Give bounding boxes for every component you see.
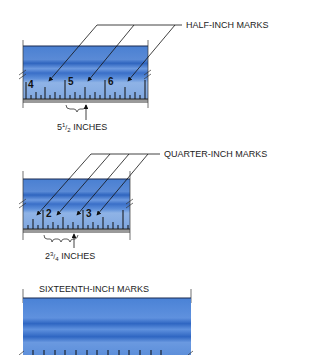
half-inch-panel: 4 5 6 HALF-INCH MARKS 51/2 INCHES	[19, 20, 269, 133]
measurement-bracket	[44, 235, 78, 242]
measurement-label: 23/4 INCHES	[45, 251, 95, 262]
inch-number-2: 2	[46, 208, 52, 219]
ruler-body	[23, 298, 191, 355]
callout-label: HALF-INCH MARKS	[186, 20, 269, 30]
measurement-label: 51/2 INCHES	[57, 122, 107, 133]
quarter-inch-panel: 2 3 QUARTER-INCH MARKS 23/4 INCHES	[19, 149, 267, 262]
measurement-bracket	[66, 105, 86, 112]
ruler-edge	[23, 99, 148, 103]
inch-number-4: 4	[28, 79, 34, 90]
ruler-body	[23, 179, 130, 229]
ruler-edge	[23, 229, 130, 233]
inch-number-6: 6	[108, 76, 114, 87]
callout-label: QUARTER-INCH MARKS	[164, 149, 267, 159]
sixteenth-inch-panel: SIXTEENTH-INCH MARKS	[19, 284, 193, 355]
ruler-diagram: 4 5 6 HALF-INCH MARKS 51/2 INCHES	[0, 0, 309, 355]
inch-number-3: 3	[86, 208, 92, 219]
panel-title: SIXTEENTH-INCH MARKS	[39, 284, 149, 294]
inch-number-5: 5	[68, 76, 74, 87]
